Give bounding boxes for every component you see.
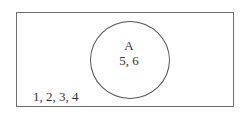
set-a-elements: 5, 6 — [90, 54, 168, 68]
venn-diagram: A 5, 6 1, 2, 3, 4 — [0, 0, 247, 115]
outside-elements: 1, 2, 3, 4 — [33, 90, 79, 104]
set-a-label: A — [90, 39, 168, 53]
